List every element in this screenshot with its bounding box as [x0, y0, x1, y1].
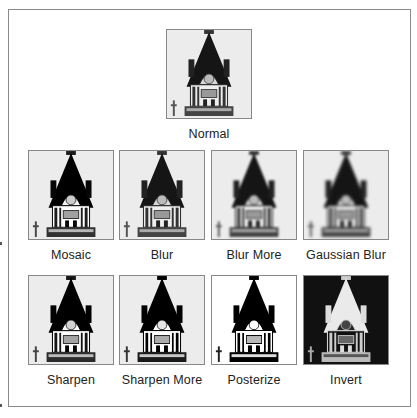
blur-cell: Blur: [119, 150, 205, 262]
blur-more-label: Blur More: [211, 248, 297, 262]
normal-cell: Normal: [164, 29, 254, 141]
invert-image: [303, 275, 389, 365]
edge-mark: [0, 242, 2, 245]
posterize-image: [211, 275, 297, 365]
gaussian-blur-label: Gaussian Blur: [303, 248, 389, 262]
figure-frame: Normal Mosaic Blur Blur More Gaussian Bl…: [8, 9, 411, 407]
invert-cell: Invert: [303, 275, 389, 387]
sharpen-image: [28, 275, 114, 365]
sharpen-more-image: [119, 275, 205, 365]
blur-more-cell: Blur More: [211, 150, 297, 262]
sharpen-more-label: Sharpen More: [119, 373, 205, 387]
sharpen-more-cell: Sharpen More: [119, 275, 205, 387]
posterize-cell: Posterize: [211, 275, 297, 387]
blur-label: Blur: [119, 248, 205, 262]
blur-image: [119, 150, 205, 240]
sharpen-label: Sharpen: [28, 373, 114, 387]
gaussian-blur-cell: Gaussian Blur: [303, 150, 389, 262]
tower-drawing-icon: [167, 30, 251, 118]
normal-label: Normal: [164, 127, 254, 141]
posterize-label: Posterize: [211, 373, 297, 387]
gaussian-blur-image: [303, 150, 389, 240]
invert-label: Invert: [303, 373, 389, 387]
sharpen-cell: Sharpen: [28, 275, 114, 387]
mosaic-image: [28, 150, 114, 240]
blur-more-image: [211, 150, 297, 240]
mosaic-label: Mosaic: [28, 248, 114, 262]
edge-mark: [0, 404, 2, 407]
tower-image-icon: [166, 29, 252, 119]
mosaic-cell: Mosaic: [28, 150, 114, 262]
